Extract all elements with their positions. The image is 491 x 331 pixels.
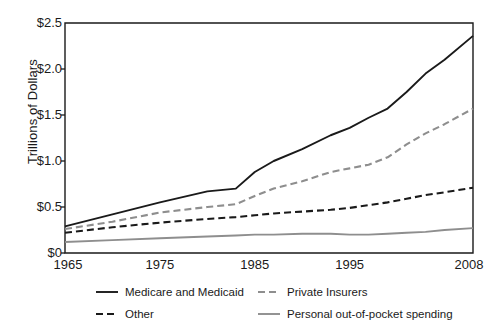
y-axis-tick-labels: $0$0.5$1.0$1.5$2.0$2.5 — [0, 0, 62, 331]
legend-swatch-solid-icon — [96, 286, 118, 298]
y-tick-label: $1.0 — [18, 154, 62, 167]
legend-label: Private Insurers — [287, 286, 368, 298]
legend-swatch-dashed-icon — [258, 286, 280, 298]
x-tick-label: 2008 — [455, 258, 484, 272]
x-tick-label: 1985 — [240, 258, 269, 272]
legend-label: Other — [125, 308, 154, 320]
legend-item[interactable]: Other — [96, 308, 154, 320]
legend-item[interactable]: Personal out-of-pocket spending — [258, 308, 453, 320]
legend-swatch-solid-icon — [258, 308, 280, 320]
legend-label: Medicare and Medicaid — [125, 286, 244, 298]
legend-swatch-dashed-icon — [96, 308, 118, 320]
plot-frame — [65, 23, 473, 253]
series-line-0 — [65, 36, 473, 226]
x-tick-label: 1965 — [54, 258, 83, 272]
plot-area — [0, 0, 491, 331]
legend-item[interactable]: Medicare and Medicaid — [96, 286, 244, 298]
x-tick-label: 1995 — [335, 258, 364, 272]
x-tick-label: 1975 — [145, 258, 174, 272]
chart-legend: Medicare and MedicaidPrivate InsurersOth… — [0, 284, 491, 330]
series-line-3 — [65, 228, 473, 242]
y-tick-label: $0.5 — [18, 200, 62, 213]
legend-item[interactable]: Private Insurers — [258, 286, 368, 298]
legend-label: Personal out-of-pocket spending — [287, 308, 453, 320]
y-tick-label: $1.5 — [18, 108, 62, 121]
y-tick-label: $2.0 — [18, 62, 62, 75]
y-tick-label: $2.5 — [18, 16, 62, 29]
chart-figure: Trillions of Dollars $0$0.5$1.0$1.5$2.0$… — [0, 0, 491, 331]
